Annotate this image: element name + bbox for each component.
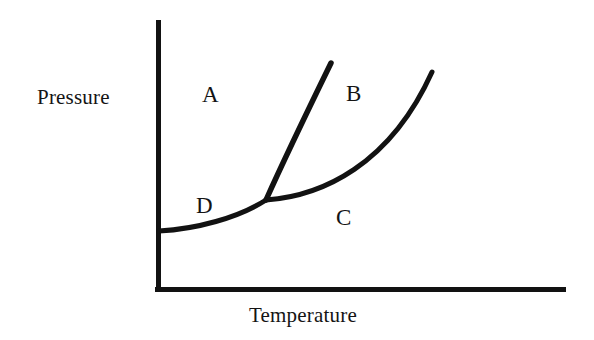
fusion-curve <box>266 63 331 200</box>
phase-diagram-canvas <box>0 0 594 340</box>
phase-diagram-figure: Pressure Temperature A B C D <box>0 0 594 340</box>
region-label-c: C <box>336 206 351 229</box>
region-label-a: A <box>202 83 219 106</box>
y-axis-title: Pressure <box>37 85 110 110</box>
x-axis-title: Temperature <box>249 303 357 328</box>
region-label-d: D <box>196 194 213 217</box>
region-label-b: B <box>346 82 361 105</box>
